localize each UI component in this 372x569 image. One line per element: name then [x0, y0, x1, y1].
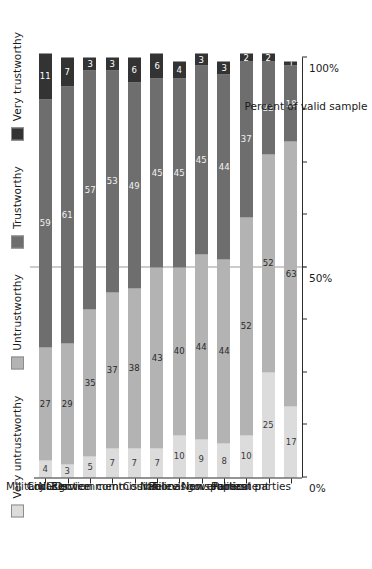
- value-tick-label: 0%: [309, 481, 326, 493]
- legend-item: Trustworthy: [11, 166, 24, 248]
- bar-segment: 2: [262, 53, 275, 61]
- bar-segment: 44: [195, 254, 208, 439]
- bar-segment: 25: [262, 372, 275, 477]
- legend-swatch-icon: [11, 504, 24, 517]
- bar-segment: 29: [61, 343, 74, 465]
- value-tick-label: 100%: [309, 61, 339, 73]
- bar-segment-value: 52: [241, 322, 252, 331]
- bar-segment: 52: [240, 217, 253, 435]
- bar-segment: 40: [173, 267, 186, 435]
- bar-segment-value: 3: [221, 63, 226, 72]
- value-tick: [302, 476, 307, 477]
- bar-segment: 7: [61, 57, 74, 86]
- bar-segment-value: 17: [285, 437, 296, 446]
- chart-legend: Very untrustworthyUntrustworthyTrustwort…: [4, 17, 30, 517]
- legend-item-label: Very trustworthy: [11, 31, 23, 120]
- bar-row: 743456: [150, 57, 163, 477]
- bar-row: 1763181: [284, 57, 297, 477]
- bar-row: 944453: [195, 57, 208, 477]
- bar-segment: 63: [284, 141, 297, 406]
- bar-segment: 2: [240, 53, 253, 61]
- bar-row: 844443: [217, 57, 230, 477]
- bar-segment: 52: [262, 154, 275, 372]
- bar-segment: 59: [39, 99, 52, 347]
- bar-segment: 5: [83, 456, 96, 477]
- bar-segment-value: 45: [196, 156, 207, 165]
- value-tick: [302, 161, 307, 162]
- bar-segment: 38: [128, 288, 141, 448]
- bar-segment-value: 10: [241, 452, 252, 461]
- value-tick: [302, 266, 307, 267]
- legend-swatch-icon: [11, 235, 24, 248]
- bar-segment-value: 7: [132, 458, 137, 467]
- bar-segment: 8: [217, 443, 230, 477]
- bar-segment: 6: [128, 57, 141, 82]
- bar-segment-value: 9: [199, 454, 204, 463]
- bar-segment-value: 45: [151, 168, 162, 177]
- bar-segment-value: 11: [40, 72, 51, 81]
- value-tick: [302, 56, 307, 57]
- bar-row: 329617: [61, 57, 74, 477]
- bar-segment: 10: [173, 435, 186, 477]
- value-tick: [302, 214, 307, 215]
- bar-segment-value: 44: [218, 347, 229, 356]
- value-tick: [302, 109, 307, 110]
- bar-row: 2552222: [262, 57, 275, 477]
- legend-item: Untrustworthy: [11, 274, 24, 370]
- bar-segment-value: 59: [40, 219, 51, 228]
- bar-segment-value: 7: [109, 458, 114, 467]
- bar-segment-value: 5: [87, 462, 92, 471]
- value-tick: [302, 371, 307, 372]
- bar-segment-value: 10: [174, 452, 185, 461]
- bar-row: 1052372: [240, 57, 253, 477]
- bar-segment: 45: [195, 65, 208, 254]
- legend-item-label: Untrustworthy: [11, 274, 23, 351]
- bar-segment-value: 27: [40, 399, 51, 408]
- bar-segment: 3: [217, 61, 230, 74]
- bar-segment: 27: [39, 347, 52, 460]
- bar-segment-value: 44: [196, 343, 207, 352]
- bar-segment: 17: [284, 406, 297, 477]
- bar-segment-value: 43: [151, 353, 162, 362]
- legend-item: Very trustworthy: [11, 31, 24, 139]
- bar-segment-value: 7: [65, 67, 70, 76]
- bar-segment: 61: [61, 86, 74, 342]
- legend-item-label: Trustworthy: [11, 166, 23, 229]
- x-axis-title: Percent of valid sample: [96, 99, 372, 111]
- bar-segment: 4: [173, 61, 186, 78]
- legend-swatch-icon: [11, 127, 24, 140]
- bar-segment-value: 4: [176, 65, 181, 74]
- bar-segment-value: 3: [65, 466, 70, 475]
- bar-segment-value: 40: [174, 347, 185, 356]
- bar-segment: 1: [284, 61, 297, 65]
- bar-segment-value: 37: [107, 366, 118, 375]
- legend-item: Very untrustworthy: [11, 395, 24, 517]
- bar-segment-value: 57: [84, 185, 95, 194]
- bar-row: 4275911: [39, 57, 52, 477]
- bar-segment: 49: [128, 82, 141, 288]
- value-tick: [302, 424, 307, 425]
- legend-swatch-icon: [11, 356, 24, 369]
- bar-row: 738496: [128, 57, 141, 477]
- bar-segment-value: 53: [107, 177, 118, 186]
- value-tick: [302, 319, 307, 320]
- bar-segment-value: 29: [62, 399, 73, 408]
- bar-segment: 3: [106, 57, 119, 70]
- bar-segment-value: 3: [199, 55, 204, 64]
- bar-segment: 43: [150, 267, 163, 448]
- bar-segment: 6: [150, 53, 163, 78]
- bar-segment: 3: [83, 57, 96, 70]
- bar-segment-value: 37: [241, 135, 252, 144]
- bar-segment: 3: [195, 53, 208, 66]
- bar-segment: 37: [240, 61, 253, 216]
- bar-segment: 11: [39, 53, 52, 99]
- bar-segment: 10: [240, 435, 253, 477]
- bar-segment: 4: [39, 460, 52, 477]
- bar-segment: 7: [128, 448, 141, 477]
- bar-segment-value: 63: [285, 269, 296, 278]
- bar-segment-value: 61: [62, 210, 73, 219]
- bar-segment: 57: [83, 70, 96, 309]
- bar-segment: 35: [83, 309, 96, 456]
